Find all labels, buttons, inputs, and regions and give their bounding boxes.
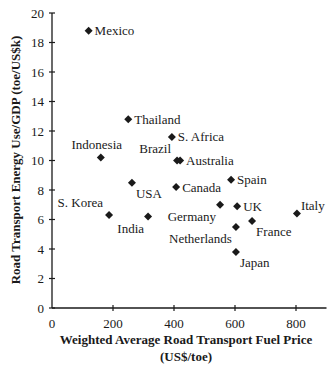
data-point: Spain (227, 172, 267, 187)
point-label: India (117, 221, 144, 236)
data-point: Canada (172, 180, 221, 195)
data-point: Australia (176, 153, 234, 168)
data-point: Germany (168, 201, 224, 224)
data-point: Mexico (85, 23, 135, 38)
diamond-marker-icon (232, 248, 240, 256)
y-tick-label: 18 (31, 35, 44, 50)
diamond-marker-icon (172, 183, 180, 191)
data-point: Italy (293, 198, 325, 218)
diamond-marker-icon (128, 179, 136, 187)
data-point: Netherlands (169, 223, 240, 246)
scatter-chart: 02468101214161820 0200400600800 MexicoTh… (0, 0, 333, 370)
x-tick-label: 0 (49, 316, 56, 331)
point-label: Mexico (95, 23, 135, 38)
diamond-marker-icon (216, 201, 224, 209)
point-label: Spain (237, 172, 267, 187)
data-point: Thailand (124, 112, 181, 127)
x-axis-units: (US$/toe) (160, 349, 212, 364)
diamond-marker-icon (124, 115, 132, 123)
point-label: Indonesia (72, 137, 123, 152)
point-label: Italy (301, 198, 325, 213)
point-label: S. Korea (58, 195, 104, 210)
diamond-marker-icon (97, 154, 105, 162)
y-tick-label: 20 (31, 6, 44, 21)
diamond-marker-icon (85, 27, 93, 35)
point-label: Australia (186, 153, 234, 168)
x-tick-label: 800 (286, 316, 306, 331)
data-point: France (248, 217, 292, 239)
diamond-marker-icon (232, 223, 240, 231)
diamond-marker-icon (144, 213, 152, 221)
diamond-marker-icon (227, 176, 235, 184)
data-point: S. Korea (58, 195, 114, 219)
x-tick-label: 600 (225, 316, 245, 331)
diamond-marker-icon (105, 211, 113, 219)
point-label: Japan (240, 255, 270, 270)
diamond-marker-icon (248, 217, 256, 225)
point-label: Canada (182, 180, 221, 195)
diamond-marker-icon (293, 210, 301, 218)
y-tick-label: 6 (38, 212, 45, 227)
data-point: USA (128, 179, 163, 201)
x-tick-label: 400 (164, 316, 184, 331)
y-axis-title: Road Transport Energy Use/GDP (toe/US$k) (8, 36, 23, 285)
x-tick-label: 200 (103, 316, 123, 331)
data-point: Brazil (139, 141, 181, 165)
point-label: USA (136, 186, 163, 201)
y-tick-label: 8 (38, 183, 45, 198)
point-label: France (256, 224, 292, 239)
data-point: Japan (232, 248, 270, 270)
point-label: Germany (168, 209, 217, 224)
y-tick-label: 10 (31, 153, 44, 168)
x-axis-ticks: 0200400600800 (49, 305, 306, 331)
y-tick-label: 14 (31, 94, 45, 109)
y-tick-label: 16 (31, 65, 45, 80)
point-label: UK (243, 199, 262, 214)
y-tick-label: 12 (31, 124, 44, 139)
point-label: Netherlands (169, 231, 232, 246)
x-axis-title: Weighted Average Road Transport Fuel Pri… (60, 332, 313, 347)
data-point: Indonesia (72, 137, 123, 162)
y-tick-label: 4 (38, 242, 45, 257)
data-point: S. Africa (168, 129, 224, 144)
data-point: India (117, 213, 152, 236)
point-label: S. Africa (178, 129, 224, 144)
y-tick-label: 0 (38, 301, 45, 316)
data-points: MexicoThailandS. AfricaIndonesiaBrazilAu… (58, 23, 326, 270)
point-label: Thailand (134, 112, 181, 127)
point-label: Brazil (139, 141, 171, 156)
data-point: UK (233, 199, 262, 214)
y-tick-label: 2 (38, 271, 45, 286)
diamond-marker-icon (233, 202, 241, 210)
